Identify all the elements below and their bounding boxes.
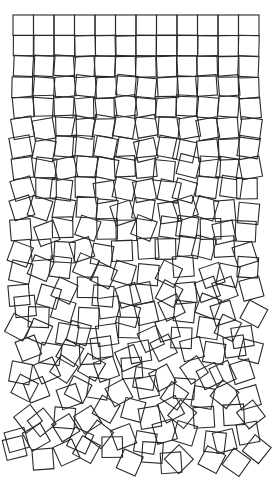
square-tile	[218, 57, 239, 78]
square-tile	[32, 55, 54, 77]
square-tile	[95, 35, 116, 56]
square-tile	[33, 35, 54, 56]
square-tile	[198, 36, 219, 57]
square-tile	[217, 95, 239, 117]
square-tile	[54, 156, 78, 180]
square-tile	[74, 406, 102, 434]
square-tile	[237, 178, 258, 199]
square-tile	[239, 117, 262, 140]
square-tile	[111, 260, 136, 285]
square-tile	[149, 364, 177, 392]
square-tile	[168, 400, 197, 429]
square-tile	[176, 153, 201, 178]
square-tile	[242, 435, 271, 464]
square-tile	[239, 156, 263, 180]
square-tile	[54, 55, 76, 77]
square-tile	[9, 195, 35, 221]
square-tile	[177, 35, 198, 56]
square-tile	[238, 77, 259, 98]
square-tile	[156, 96, 177, 117]
square-tile	[2, 436, 27, 461]
square-tile	[217, 117, 239, 139]
square-tile	[13, 15, 34, 36]
square-tile	[222, 448, 251, 477]
square-tile	[176, 95, 198, 117]
square-tile	[156, 35, 177, 56]
square-tile	[73, 253, 100, 280]
square-tile	[76, 156, 98, 178]
square-tile	[118, 317, 139, 338]
square-tile	[196, 362, 223, 389]
square-tile	[164, 445, 193, 474]
square-tile	[137, 325, 164, 352]
square-tile	[36, 284, 61, 309]
square-tile	[116, 449, 143, 476]
square-tile	[202, 341, 225, 364]
square-tile	[136, 35, 157, 56]
square-tile	[8, 284, 30, 306]
square-tile	[116, 15, 137, 36]
square-tile	[36, 178, 57, 199]
square-tile	[75, 15, 96, 36]
square-tile	[177, 56, 198, 77]
square-tile	[240, 300, 268, 328]
square-tile	[77, 277, 98, 298]
square-tile	[196, 75, 218, 97]
square-tile	[53, 439, 80, 466]
square-tile	[76, 196, 98, 218]
square-tile	[177, 15, 198, 36]
square-tile	[160, 452, 182, 474]
square-tile	[218, 15, 239, 36]
square-tile	[218, 36, 239, 57]
square-tile	[232, 242, 258, 268]
square-tile	[238, 339, 263, 364]
square-tile	[115, 36, 136, 57]
square-tile	[236, 421, 260, 445]
square-tile	[32, 448, 54, 470]
square-tile	[95, 77, 116, 98]
square-tile	[172, 139, 196, 163]
square-tile	[13, 55, 34, 76]
square-tile	[157, 77, 179, 99]
square-tile	[198, 446, 226, 474]
square-tile	[239, 15, 260, 36]
square-tile	[173, 378, 195, 400]
square-tile	[115, 55, 136, 76]
square-tile	[13, 35, 34, 56]
square-tile	[197, 96, 219, 118]
square-tile	[102, 437, 123, 458]
square-tile	[210, 300, 236, 326]
squares-artwork	[0, 0, 280, 490]
square-tile	[238, 35, 259, 56]
square-tile	[10, 219, 32, 241]
artwork-canvas	[0, 0, 280, 490]
square-tile	[75, 177, 96, 198]
square-tile	[137, 264, 159, 286]
square-tile	[54, 75, 76, 97]
square-tile	[238, 56, 259, 77]
square-tile	[54, 407, 76, 429]
square-tile	[239, 276, 264, 301]
square-tile	[112, 177, 136, 201]
square-tile	[198, 15, 219, 36]
square-tile	[27, 408, 56, 437]
square-tile	[111, 240, 132, 261]
square-tile	[9, 260, 33, 284]
square-tile	[94, 136, 118, 160]
square-tile	[121, 397, 146, 422]
square-tile	[11, 157, 34, 180]
square-tile	[218, 75, 240, 97]
square-tile	[156, 56, 177, 77]
square-tile	[95, 15, 116, 36]
square-tile	[115, 95, 138, 118]
square-tile	[34, 220, 60, 246]
square-tile	[136, 15, 157, 36]
square-tile	[53, 96, 75, 118]
square-tile	[27, 195, 53, 221]
square-tile	[54, 15, 75, 36]
square-tile	[239, 97, 261, 119]
square-tile	[177, 76, 198, 97]
square-tile	[12, 96, 34, 118]
square-tile	[39, 342, 62, 365]
square-tile	[135, 56, 156, 77]
